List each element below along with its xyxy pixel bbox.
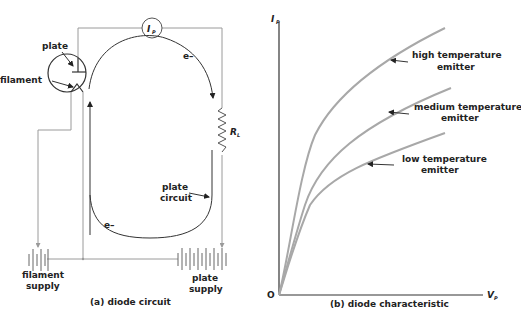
svg-text:P: P xyxy=(152,29,156,35)
origin-label: O xyxy=(267,290,275,300)
electron-flow-top-arrow xyxy=(89,36,213,98)
filament-supply-label: filament xyxy=(22,270,65,280)
medium-temperature-label: medium temperature xyxy=(414,102,521,112)
svg-text:emitter: emitter xyxy=(441,113,479,123)
y-axis-label: I xyxy=(271,14,275,24)
circuit-caption: (a) diode circuit xyxy=(90,297,172,307)
load-resistor xyxy=(218,108,226,152)
filament-supply-battery xyxy=(29,249,48,271)
low-temperature-label: low temperature xyxy=(402,154,487,164)
svg-text:emitter: emitter xyxy=(421,165,459,175)
electron-bottom-label: e– xyxy=(104,220,115,230)
filament-wire-left xyxy=(38,92,71,247)
svg-text:P: P xyxy=(494,295,498,301)
diode-characteristic-graph: I P V P O high temperature emitter mediu… xyxy=(267,14,521,309)
electron-top-label: e– xyxy=(183,51,194,61)
svg-text:supply: supply xyxy=(26,281,60,291)
plate-circuit-label: plate xyxy=(162,182,188,192)
svg-text:circuit: circuit xyxy=(160,193,193,203)
plate-wire xyxy=(78,28,142,65)
plate-supply-battery xyxy=(178,248,226,270)
diode-circuit: I P R L plate filament e– xyxy=(0,18,240,307)
svg-text:emitter: emitter xyxy=(437,62,475,72)
diode-figure: I P R L plate filament e– xyxy=(0,0,521,321)
high-temperature-label: high temperature xyxy=(412,50,502,60)
svg-text:L: L xyxy=(237,132,240,138)
resistor-label: R xyxy=(230,127,237,137)
graph-caption: (b) diode characteristic xyxy=(330,299,449,309)
diode-tube xyxy=(48,54,86,92)
plate-supply-label: plate xyxy=(192,273,218,283)
medium-temperature-curve xyxy=(279,88,451,295)
plate-label: plate xyxy=(42,41,68,51)
filament-label: filament xyxy=(0,75,43,85)
svg-text:P: P xyxy=(276,19,280,25)
ammeter: I P xyxy=(142,18,162,38)
svg-text:supply: supply xyxy=(189,284,223,294)
